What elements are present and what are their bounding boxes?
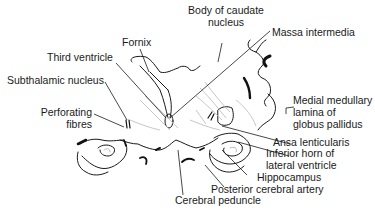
label-fornix: Fornix <box>122 37 151 48</box>
label-massa-intermedia: Massa intermedia <box>272 27 355 38</box>
label-inferior-horn-line1: Inferior horn of <box>266 148 334 159</box>
label-medial-lamina-line2: lamina of <box>293 107 336 118</box>
label-cerebral-peduncle: Cerebral peduncle <box>175 195 261 206</box>
label-inferior-horn-line2: lateral ventricle <box>266 160 337 171</box>
label-third-ventricle: Third ventricle <box>47 52 113 63</box>
anatomy-diagram: Fornix Body of caudate nucleus Massa int… <box>0 0 375 214</box>
label-medial-lamina-line1: Medial medullary <box>293 95 372 106</box>
label-subthalamic-nucleus: Subthalamic nucleus <box>7 75 104 86</box>
label-perforating-line1: Perforating <box>10 107 92 118</box>
label-body-caudate-line1: Body of caudate <box>183 5 269 16</box>
label-body-caudate-line2: nucleus <box>183 17 269 28</box>
label-perforating-line2: fibres <box>10 119 92 130</box>
label-hippocampus: Hippocampus <box>257 172 321 183</box>
label-medial-lamina-line3: globus pallidus <box>293 119 362 130</box>
